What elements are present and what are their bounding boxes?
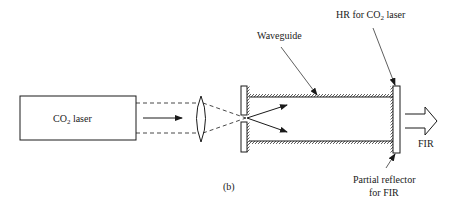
panel-label: (b) [223,181,235,193]
fir-laser-diagram: CO2 laser FIR Waveguide HR for CO2 [0,0,458,205]
diverging-beam-arrow-up [247,105,287,118]
waveguide [249,94,393,144]
partial-reflector-label-line2: for FIR [369,187,399,198]
waveguide-leader [281,47,317,95]
focusing-lens [197,96,206,142]
hr-mirror-label: HR for CO2 laser [336,9,406,22]
fir-output-label: FIR [418,138,434,149]
diverging-beam-arrow-down [247,118,287,132]
co2-laser-box: CO2 laser [20,96,136,140]
partial-reflector-label-line1: Partial reflector [353,174,416,185]
hr-leader [373,28,395,85]
input-coupling-mirror [241,86,250,152]
output-reflector [391,86,401,153]
waveguide-label: Waveguide [257,30,302,41]
fir-output-arrow [405,107,437,135]
co2-laser-label: CO2 laser [53,113,92,126]
partial-reflector-leader [386,154,395,168]
